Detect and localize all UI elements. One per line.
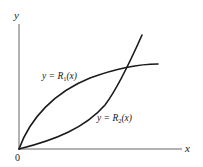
y-axis-label: y xyxy=(13,9,19,21)
origin-label: 0 xyxy=(15,152,20,163)
curve-r1-label: y = R1(x) xyxy=(41,71,77,82)
curve-r1 xyxy=(19,64,158,149)
x-axis-label: x xyxy=(184,142,190,154)
curve-r2-label: y = R2(x) xyxy=(96,113,132,124)
function-graph: y x 0 y = R1(x) y = R2(x) xyxy=(0,0,203,167)
curve-r2 xyxy=(19,35,142,149)
